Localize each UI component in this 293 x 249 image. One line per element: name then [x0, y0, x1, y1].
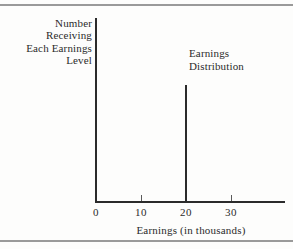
y-axis-label-line-2: Receiving	[0, 29, 92, 41]
series-annotation-line-2: Distribution	[189, 60, 244, 73]
x-axis-title: Earnings (in thousands)	[96, 224, 286, 236]
y-axis-label: Number Receiving Each Earnings Level	[0, 17, 92, 67]
y-axis-label-line-4: Level	[0, 54, 92, 66]
x-axis-tick	[231, 195, 232, 201]
earnings-spike-bar	[185, 85, 187, 201]
series-annotation-line-1: Earnings	[189, 47, 244, 60]
x-axis-tick-label: 20	[173, 206, 199, 219]
series-annotation: Earnings Distribution	[189, 47, 244, 73]
y-axis-label-line-3: Each Earnings	[0, 42, 92, 54]
earnings-distribution-figure: Number Receiving Each Earnings Level Ear…	[0, 0, 293, 249]
x-axis-tick	[141, 195, 142, 201]
x-axis-line	[95, 201, 285, 203]
page-rule-top	[0, 4, 293, 6]
x-axis-tick-label: 0	[83, 206, 109, 219]
x-axis-tick-label: 30	[218, 206, 244, 219]
y-axis-label-line-1: Number	[0, 17, 92, 29]
x-axis-tick-label: 10	[128, 206, 154, 219]
y-axis-line	[95, 18, 97, 203]
page-rule-bottom	[0, 240, 293, 242]
